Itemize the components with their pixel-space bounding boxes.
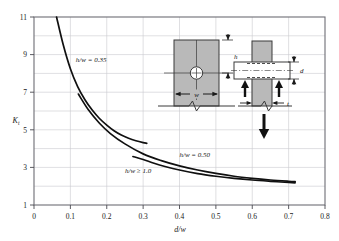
x-tick-label: 0.3 (138, 212, 148, 221)
dimension-label-w: w (194, 91, 199, 99)
label-hw-10: h/w ≥ 1.0 (125, 167, 152, 175)
y-tick-label: 5 (23, 126, 27, 135)
label-hw-050: h/w = 0.50 (180, 151, 211, 159)
dimension-label-h: h (234, 53, 238, 61)
y-tick-label: 1 (23, 201, 27, 210)
label-hw-035: h/w = 0.35 (76, 56, 107, 64)
x-axis-title: d/w (174, 225, 186, 234)
x-tick-label: 0.4 (175, 212, 185, 221)
y-tick-label: 11 (20, 13, 27, 22)
x-tick-label: 0.7 (284, 212, 294, 221)
x-tick-label: 0.6 (248, 212, 258, 221)
y-tick-label: 7 (23, 88, 27, 97)
dimension-label-d: d (300, 67, 304, 75)
x-tick-label: 0.8 (320, 212, 330, 221)
x-tick-label: 0.5 (211, 212, 221, 221)
figure-stress-concentration-chart: 00.10.20.30.40.50.60.70.8 1357911 d/w Kt… (0, 0, 339, 241)
x-tick-label: 0.1 (66, 212, 76, 221)
y-tick-label: 9 (23, 50, 27, 59)
chart-svg: 00.10.20.30.40.50.60.70.8 1357911 d/w Kt… (0, 0, 339, 241)
y-tick-label: 3 (23, 163, 27, 172)
x-tick-label: 0 (32, 212, 36, 221)
x-tick-label: 0.2 (102, 212, 112, 221)
